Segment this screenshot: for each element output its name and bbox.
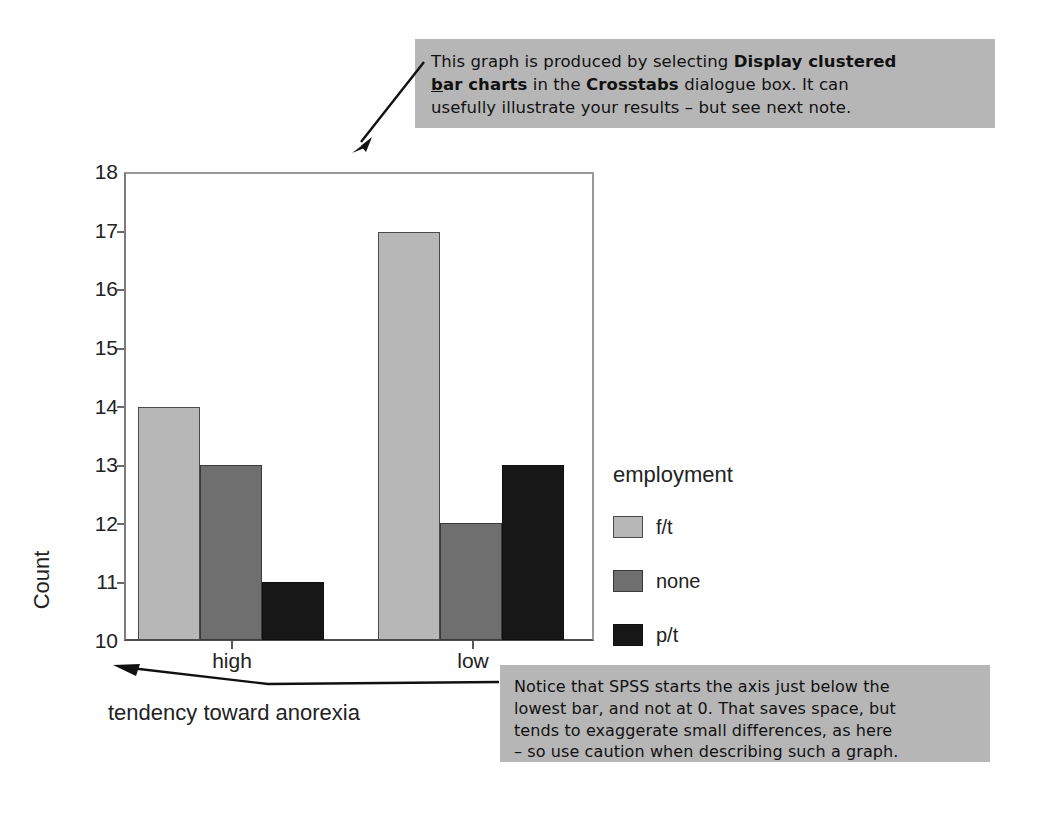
x-axis-title: tendency toward anorexia bbox=[108, 700, 360, 726]
note-top-line1-plain: This graph is produced by selecting bbox=[431, 52, 734, 71]
note-top-line2-bold-underline: b bbox=[431, 75, 443, 94]
y-tick-16: 16 bbox=[82, 277, 118, 301]
legend-label-none: none bbox=[656, 570, 701, 593]
legend: employment f/t none p/t bbox=[613, 462, 813, 676]
legend-item-none: none bbox=[613, 568, 813, 594]
x-tick-mark-low bbox=[472, 641, 474, 649]
note-top-line3: usefully illustrate your results – but s… bbox=[431, 98, 851, 117]
note-top-line1-bold: Display clustered bbox=[734, 52, 897, 71]
annotation-note-top: This graph is produced by selecting Disp… bbox=[415, 39, 995, 128]
y-tick-13: 13 bbox=[82, 453, 118, 477]
x-category-low: low bbox=[457, 649, 489, 673]
legend-label-ft: f/t bbox=[656, 516, 673, 539]
bar-high-pt bbox=[262, 582, 324, 640]
legend-item-pt: p/t bbox=[613, 622, 813, 648]
note-bottom-line4: – so use caution when describing such a … bbox=[514, 742, 899, 761]
y-tick-17: 17 bbox=[82, 219, 118, 243]
legend-title: employment bbox=[613, 462, 813, 488]
note-bottom-line3: tends to exaggerate small differences, a… bbox=[514, 721, 892, 740]
bar-low-pt bbox=[502, 465, 564, 640]
note-bottom-line1: Notice that SPSS starts the axis just be… bbox=[514, 677, 890, 696]
legend-label-pt: p/t bbox=[656, 624, 678, 647]
note-top-line2-mid: in the bbox=[527, 75, 586, 94]
y-axis-title: Count bbox=[29, 520, 55, 640]
legend-swatch-pt bbox=[613, 624, 643, 646]
y-axis-tick-labels: 18 17 16 15 14 13 12 11 10 bbox=[76, 172, 118, 641]
y-tick-10: 10 bbox=[82, 629, 118, 653]
y-tick-15: 15 bbox=[82, 336, 118, 360]
bar-low-none bbox=[440, 523, 502, 640]
legend-item-ft: f/t bbox=[613, 514, 813, 540]
bar-high-ft bbox=[138, 407, 200, 640]
y-tick-11: 11 bbox=[82, 570, 118, 594]
x-category-high: high bbox=[212, 649, 252, 673]
y-tick-18: 18 bbox=[82, 160, 118, 184]
note-top-line2-bold2: Crosstabs bbox=[586, 75, 679, 94]
y-tick-14: 14 bbox=[82, 395, 118, 419]
bar-group-container bbox=[126, 174, 592, 640]
x-tick-mark-high bbox=[231, 641, 233, 649]
bar-high-none bbox=[200, 465, 262, 640]
bar-low-ft bbox=[378, 232, 440, 640]
note-top-line2-bold-rest: ar charts bbox=[443, 75, 527, 94]
note-bottom-line2: lowest bar, and not at 0. That saves spa… bbox=[514, 699, 896, 718]
legend-swatch-none bbox=[613, 570, 643, 592]
annotation-note-bottom: Notice that SPSS starts the axis just be… bbox=[500, 665, 990, 762]
y-tick-12: 12 bbox=[82, 512, 118, 536]
legend-swatch-ft bbox=[613, 516, 643, 538]
note-top-line2-end: dialogue box. It can bbox=[679, 75, 849, 94]
